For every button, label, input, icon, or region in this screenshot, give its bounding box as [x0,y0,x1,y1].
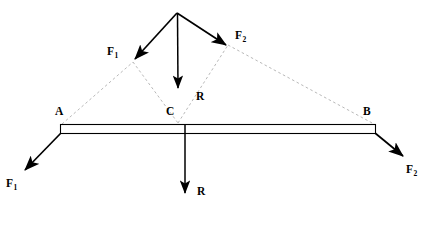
label-f1-upper: F1 [107,46,118,58]
label-point-c: C [166,106,175,118]
construction-line-c-to-right-vertex [178,45,228,123]
force-vector-f2-lower [375,133,403,156]
construction-line-right-vertex-to-b [228,45,374,124]
force-vector-f1-upper [135,13,177,59]
construction-line-a-to-left-vertex [62,62,133,124]
label-r-lower: R [197,186,206,198]
label-r-upper: R [196,91,205,103]
label-f2-lower: F2 [406,164,417,176]
beam-body [61,125,376,134]
force-diagram: F1 F2 R A C B F1 F2 R [0,0,425,230]
beam-group [61,125,376,134]
label-point-a: A [55,106,64,118]
lower-vectors-group [25,125,403,193]
label-f1-lower: F1 [6,178,17,190]
force-vector-f2-upper [177,13,226,45]
resultant-vector-r-upper [178,13,179,88]
force-vector-f1-lower [25,133,61,170]
upper-vectors-group [135,13,226,88]
label-point-b: B [363,106,371,118]
label-f2-upper: F2 [235,30,246,42]
